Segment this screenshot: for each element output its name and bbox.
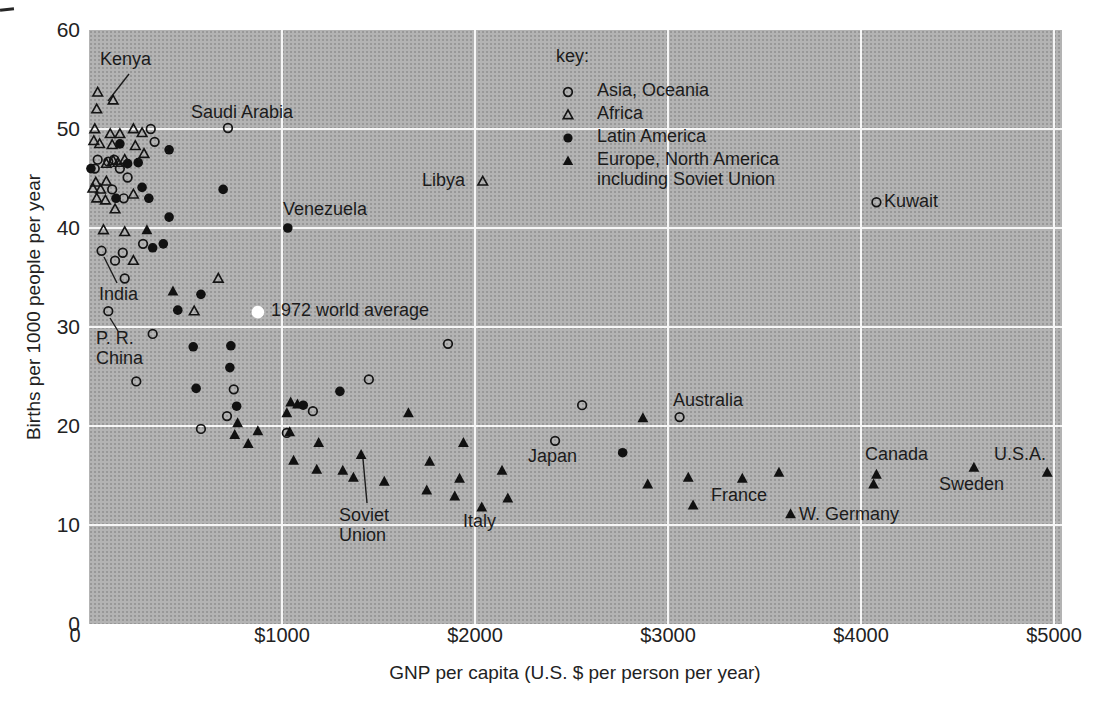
point-open-circle [365, 375, 374, 384]
point-open-circle [111, 256, 120, 265]
point-filled-circle [225, 363, 235, 373]
country-label: Australia [673, 390, 743, 410]
point-open-triangle [99, 225, 109, 234]
y-tick-label: 40 [0, 216, 80, 240]
legend-row-asia-oceania: Asia, Oceania [552, 80, 779, 103]
point-open-triangle [105, 129, 115, 138]
point-open-circle [120, 274, 129, 283]
country-label: U.S.A. [994, 444, 1046, 464]
point-filled-circle [618, 448, 628, 458]
open-circle-icon [552, 80, 597, 103]
point-filled-triangle [168, 286, 179, 296]
point-filled-circle [137, 183, 147, 193]
point-filled-triangle [379, 476, 390, 486]
point-filled-triangle [638, 412, 649, 422]
point-open-circle [97, 246, 106, 255]
point-filled-circle [196, 290, 206, 300]
point-open-circle [872, 198, 881, 207]
point-filled-circle [335, 387, 345, 397]
point-filled-triangle [683, 472, 694, 482]
country-label: Japan [528, 446, 577, 466]
point-open-circle [229, 385, 238, 394]
y-tick-label: 60 [0, 18, 80, 42]
point-filled-circle [123, 159, 133, 169]
legend-label: Africa [597, 103, 643, 123]
point-filled-triangle [288, 455, 299, 465]
legend-row-latin-america: Latin America [552, 126, 779, 149]
x-tick-label: $5000 [1026, 624, 1082, 647]
legend: key: Asia, Oceania Africa Latin America … [552, 46, 779, 189]
point-filled-triangle [424, 456, 435, 466]
point-filled-triangle [281, 407, 292, 417]
legend-row-europe-north-america: Europe, North America including Soviet U… [552, 149, 779, 189]
point-filled-triangle [356, 449, 367, 459]
country-label: Libya [422, 170, 465, 190]
point-open-circle [309, 407, 318, 416]
country-label: Kuwait [884, 191, 938, 211]
country-label: Canada [865, 444, 928, 464]
point-filled-circle [148, 243, 158, 253]
point-filled-triangle [502, 492, 513, 502]
point-open-triangle [115, 129, 125, 138]
point-filled-circle [226, 341, 236, 351]
point-open-triangle [92, 104, 102, 113]
point-filled-triangle [1042, 467, 1053, 477]
x-axis-title: GNP per capita (U.S. $ per person per ye… [389, 662, 760, 684]
y-tick-label: 10 [0, 513, 80, 537]
point-open-triangle [102, 176, 112, 185]
point-filled-circle [173, 305, 183, 315]
point-open-circle [93, 155, 102, 164]
point-open-circle [150, 138, 159, 147]
point-open-circle [123, 173, 132, 182]
point-open-circle [118, 248, 127, 257]
point-filled-triangle [785, 508, 796, 518]
point-open-triangle [129, 256, 139, 265]
country-label: Kenya [100, 49, 151, 69]
chart-canvas [0, 0, 1101, 702]
point-filled-circle [115, 139, 125, 149]
y-tick-label: 50 [0, 117, 80, 141]
legend-label: Europe, North America including Soviet U… [597, 149, 779, 189]
y-tick-label: 30 [0, 315, 80, 339]
country-label: 1972 world average [271, 300, 429, 320]
point-filled-triangle [774, 467, 785, 477]
point-filled-triangle [313, 437, 324, 447]
point-filled-triangle [348, 472, 359, 482]
point-filled-triangle [403, 407, 414, 417]
point-filled-circle [111, 194, 121, 204]
point-open-triangle [131, 141, 141, 150]
point-filled-triangle [497, 465, 508, 475]
point-filled-triangle [142, 224, 153, 234]
point-filled-circle [191, 384, 201, 394]
country-label: Soviet Union [339, 505, 389, 545]
point-filled-circle [133, 158, 143, 168]
label-leader-line [108, 74, 129, 101]
x-tick-label: $3000 [640, 624, 696, 647]
legend-label: Asia, Oceania [597, 80, 709, 100]
point-filled-triangle [337, 465, 348, 475]
point-white-circle [252, 306, 265, 319]
country-label: India [99, 284, 138, 304]
point-filled-triangle [868, 479, 879, 489]
point-open-circle [132, 377, 141, 386]
legend-label: Latin America [597, 126, 706, 146]
country-label: Italy [463, 511, 496, 531]
point-open-triangle [129, 189, 139, 198]
label-leader-line [363, 459, 367, 503]
point-open-triangle [214, 273, 224, 282]
y-tick-label: 20 [0, 414, 80, 438]
point-filled-circle [86, 164, 96, 174]
country-label: P. R. China [96, 328, 143, 368]
point-open-circle [223, 412, 232, 421]
x-tick-label: $2000 [447, 624, 503, 647]
point-filled-triangle [688, 499, 699, 509]
country-label: Saudi Arabia [191, 102, 293, 122]
point-open-circle [108, 185, 117, 194]
point-open-circle [675, 413, 684, 422]
x-tick-label: $1000 [254, 624, 310, 647]
point-filled-triangle [243, 438, 254, 448]
point-filled-triangle [454, 473, 465, 483]
point-filled-triangle [737, 473, 748, 483]
point-filled-triangle [311, 464, 322, 474]
point-open-circle [104, 307, 113, 316]
